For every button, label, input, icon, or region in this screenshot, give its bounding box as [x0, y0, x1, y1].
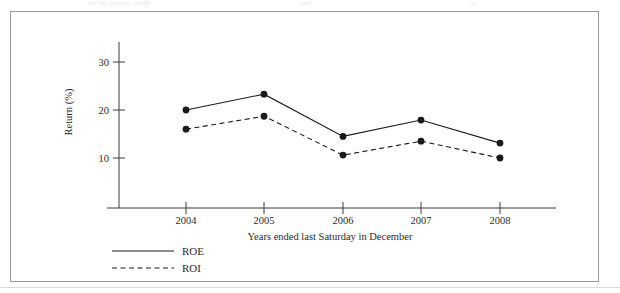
x-tick-label-2004: 2004: [176, 215, 198, 226]
line-chart: 30 20 10 Return (%) 2004 2005 2006 2007 …: [0, 0, 620, 293]
legend-label-roe: ROE: [182, 245, 204, 257]
series-markers-roe: [183, 91, 504, 147]
data-point-roi-2005: [261, 113, 268, 120]
y-tick-label-10: 10: [99, 153, 110, 164]
x-tick-label-2006: 2006: [333, 215, 354, 226]
data-point-roi-2008: [497, 155, 504, 162]
data-point-roi-2004: [183, 126, 190, 133]
data-point-roe-2006: [340, 133, 347, 140]
data-point-roe-2008: [497, 140, 504, 147]
chart-legend: ROE ROI: [112, 245, 204, 274]
y-tick-label-20: 20: [99, 105, 110, 116]
y-tick-label-30: 30: [99, 57, 110, 68]
x-axis-title: Years ended last Saturday in December: [248, 231, 413, 242]
legend-label-roi: ROI: [182, 262, 201, 274]
data-point-roe-2004: [183, 107, 190, 114]
data-point-roe-2007: [418, 117, 425, 124]
x-tick-label-2005: 2005: [254, 215, 275, 226]
data-point-roi-2007: [418, 138, 425, 145]
data-point-roe-2005: [261, 91, 268, 98]
x-tick-label-2008: 2008: [490, 215, 511, 226]
y-axis-title: Return (%): [63, 88, 75, 135]
data-point-roi-2006: [340, 152, 347, 159]
x-tick-label-2007: 2007: [411, 215, 432, 226]
